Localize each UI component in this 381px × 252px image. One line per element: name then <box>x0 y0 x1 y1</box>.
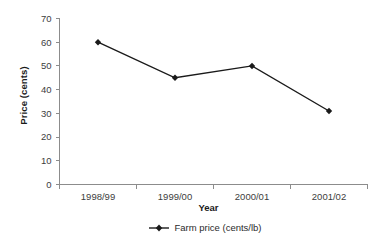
y-tick-label: 30 <box>41 108 52 119</box>
diamond-marker-icon <box>149 223 169 233</box>
y-axis-tick-labels: 010203040506070 <box>41 13 52 190</box>
legend-item-farm-price: Farm price (cents/lb) <box>149 222 261 233</box>
y-tick-label: 60 <box>41 37 52 48</box>
x-tick-label: 1999/00 <box>158 191 192 201</box>
plot-area: 010203040506070 1998/991999/002000/01200… <box>0 0 381 200</box>
x-tick-label: 2000/01 <box>235 191 269 201</box>
data-point-marker <box>172 75 178 81</box>
y-tick-label: 40 <box>41 84 52 95</box>
y-tick-label: 10 <box>41 155 52 166</box>
series-line-farm-price <box>98 42 329 111</box>
x-tick-label: 1998/99 <box>81 191 115 201</box>
data-point-marker <box>326 108 332 114</box>
y-tick-label: 20 <box>41 131 52 142</box>
legend-item-label: Farm price (cents/lb) <box>174 222 261 233</box>
data-point-marker <box>95 39 101 45</box>
plot-svg: 010203040506070 1998/991999/002000/01200… <box>0 0 381 200</box>
x-axis-ticks <box>60 185 368 189</box>
chart-legend: Farm price (cents/lb) <box>0 222 381 233</box>
line-chart: Price (cents) 010203040506070 1998/99199… <box>0 0 381 252</box>
series-markers-farm-price <box>95 39 332 114</box>
y-axis-ticks <box>56 19 60 185</box>
x-axis-title-label: Year <box>198 202 218 213</box>
x-tick-label: 2001/02 <box>312 191 346 201</box>
x-axis-tick-labels: 1998/991999/002000/012001/02 <box>81 191 346 201</box>
data-point-marker <box>249 63 255 69</box>
y-tick-label: 50 <box>41 60 52 71</box>
y-tick-label: 0 <box>46 179 51 190</box>
y-tick-label: 70 <box>41 13 52 24</box>
x-axis-title: Year <box>0 202 381 213</box>
